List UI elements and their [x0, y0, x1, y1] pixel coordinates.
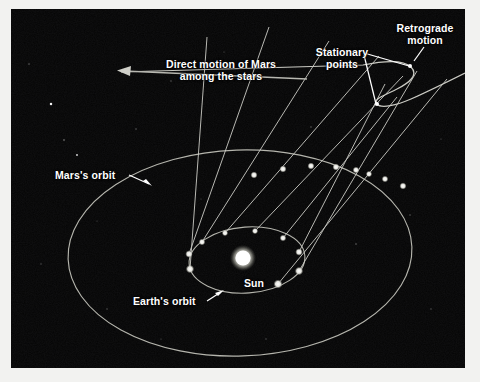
earth-dot: [186, 265, 195, 274]
retrograde-motion-figure: Direct motion of Mars among the stars St…: [0, 0, 480, 382]
mars-dot: [399, 182, 406, 189]
mars-dot: [279, 165, 286, 172]
sight-line-4: [225, 56, 379, 233]
sight-line-6: [283, 97, 397, 238]
mars-dot: [250, 171, 257, 178]
earth-dot: [295, 248, 303, 256]
mars-dot: [353, 167, 360, 174]
earth-orbit-label: Earth's orbit: [133, 295, 219, 307]
stationary-points-label: Stationary points: [306, 46, 378, 70]
earth-dot: [185, 250, 193, 258]
earth-dot: [252, 228, 258, 234]
mars-dot: [382, 176, 389, 183]
leader-arrowheads: [143, 179, 224, 296]
sight-line-9: [278, 79, 447, 284]
earth-dot: [222, 230, 228, 236]
leader-retrograde: [414, 47, 424, 61]
sun-body: [230, 245, 256, 271]
retrograde-motion-label: Retrograde motion: [380, 22, 465, 46]
sky-panel: Direct motion of Mars among the stars St…: [11, 9, 465, 368]
earth-dot: [199, 239, 206, 246]
mars-dot: [332, 163, 339, 170]
mars-dot: [366, 171, 372, 177]
sun-label: Sun: [230, 277, 278, 289]
mars-dot: [307, 162, 314, 169]
mars-orbit-label: Mars's orbit: [55, 169, 141, 181]
earth-dot: [280, 235, 287, 242]
earth-dot: [295, 267, 304, 276]
sight-line-5: [255, 76, 403, 231]
mars-positions: [250, 162, 406, 189]
direct-motion-label: Direct motion of Mars among the stars: [147, 58, 295, 82]
